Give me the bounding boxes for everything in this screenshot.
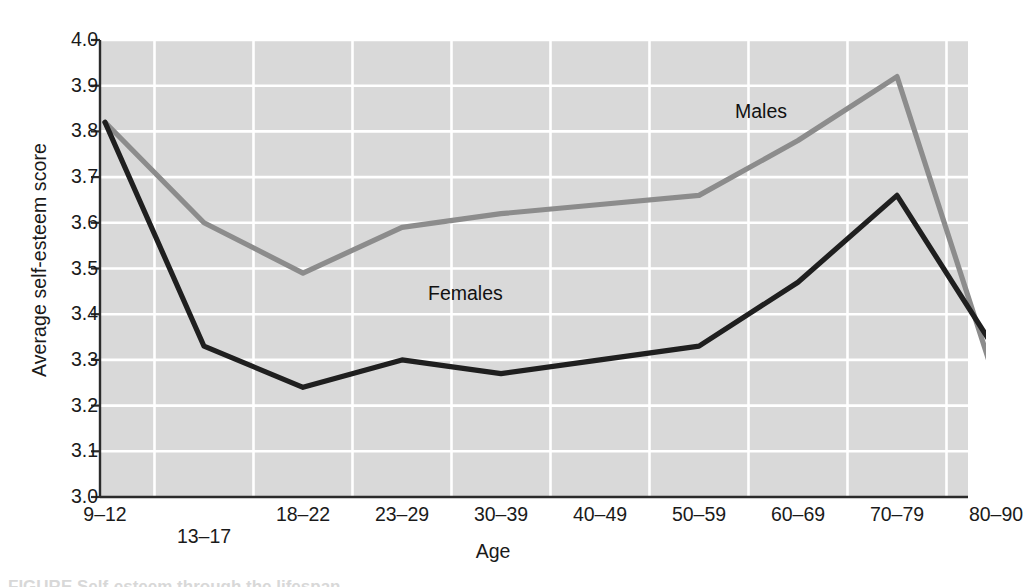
y-axis-title: Average self-esteem score	[26, 25, 52, 495]
series-label-females: Females	[428, 282, 503, 305]
x-axis-title: Age	[0, 540, 986, 563]
x-tick-label: 9–12	[45, 505, 165, 525]
x-tick-label: 80–90	[936, 505, 1027, 525]
series-label-males: Males	[735, 100, 787, 123]
figure-caption-clipped: FIGURE Self-esteem through the lifespan.	[8, 577, 568, 587]
